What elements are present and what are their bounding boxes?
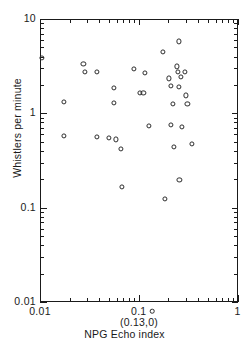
plot-area <box>40 19 238 302</box>
whistler-scatter-figure: 1010.10.01 0.010.11 (0.13,0) Whistlers p… <box>0 0 249 343</box>
y-tick-right <box>234 245 238 246</box>
y-tick-right <box>234 118 238 119</box>
y-tick <box>40 212 44 213</box>
y-tick-right <box>232 302 238 303</box>
x-tick-label: 0.01 <box>29 305 51 317</box>
x-tick <box>99 298 100 302</box>
y-tick <box>40 217 44 218</box>
y-axis-title: Whistlers per minute <box>11 53 23 203</box>
x-tick <box>216 298 217 302</box>
y-tick <box>40 122 44 123</box>
offscale-annotation: (0.13,0) <box>120 316 158 328</box>
y-tick-right <box>234 122 238 123</box>
x-tick-label: 1 <box>234 305 240 317</box>
x-tick <box>228 298 229 302</box>
x-tick-top <box>222 19 223 23</box>
y-tick <box>40 222 44 223</box>
x-tick <box>70 298 71 302</box>
x-tick <box>186 298 187 302</box>
y-tick <box>40 134 44 135</box>
y-tick <box>40 179 44 180</box>
y-tick <box>40 302 47 303</box>
y-tick-right <box>232 208 238 209</box>
y-tick <box>40 47 44 48</box>
x-tick <box>139 295 140 302</box>
y-tick-right <box>234 40 238 41</box>
y-tick-right <box>234 57 238 58</box>
y-tick <box>40 229 44 230</box>
x-tick <box>40 295 41 302</box>
x-tick-top <box>228 19 229 23</box>
y-tick-right <box>234 236 238 237</box>
x-tick-top <box>129 19 130 23</box>
y-tick-right <box>234 68 238 69</box>
x-tick <box>109 298 110 302</box>
y-tick-right <box>234 229 238 230</box>
y-tick <box>40 128 44 129</box>
y-tick <box>40 151 44 152</box>
y-tick <box>40 274 44 275</box>
y-tick-right <box>234 151 238 152</box>
y-tick-right <box>234 34 238 35</box>
y-tick <box>40 257 44 258</box>
y-tick-right <box>234 128 238 129</box>
y-tick-right <box>234 179 238 180</box>
y-tick-right <box>232 113 238 114</box>
x-tick <box>222 298 223 302</box>
y-tick-right <box>234 85 238 86</box>
offscale-data-point <box>150 309 155 314</box>
y-tick <box>40 113 47 114</box>
y-tick <box>40 208 47 209</box>
y-tick-right <box>234 142 238 143</box>
x-tick-top <box>186 19 187 23</box>
x-tick <box>198 298 199 302</box>
x-tick <box>87 298 88 302</box>
y-tick-label: 10 <box>0 12 36 24</box>
x-tick <box>168 298 169 302</box>
x-tick-top <box>198 19 199 23</box>
x-tick <box>134 298 135 302</box>
y-tick-right <box>234 47 238 48</box>
x-tick <box>238 295 239 302</box>
y-tick-right <box>234 222 238 223</box>
y-tick <box>40 19 47 20</box>
x-tick <box>129 298 130 302</box>
y-tick-right <box>234 257 238 258</box>
y-tick <box>40 245 44 246</box>
x-tick-top <box>168 19 169 23</box>
y-tick-right <box>234 28 238 29</box>
x-tick-top <box>233 19 234 23</box>
y-tick <box>40 34 44 35</box>
y-tick-right <box>234 274 238 275</box>
x-tick-top <box>87 19 88 23</box>
y-tick-right <box>234 163 238 164</box>
y-tick <box>40 68 44 69</box>
y-tick <box>40 28 44 29</box>
x-tick-top <box>40 19 41 25</box>
x-tick-top <box>117 19 118 23</box>
x-tick-top <box>70 19 71 23</box>
x-tick <box>233 298 234 302</box>
y-tick-right <box>234 134 238 135</box>
x-tick <box>208 298 209 302</box>
y-tick-right <box>234 212 238 213</box>
y-tick <box>40 142 44 143</box>
x-tick-top <box>208 19 209 23</box>
x-tick-top <box>109 19 110 23</box>
x-tick-top <box>99 19 100 23</box>
x-axis-title: NPG Echo index <box>0 328 249 340</box>
y-tick <box>40 40 44 41</box>
y-tick <box>40 118 44 119</box>
x-tick <box>123 298 124 302</box>
y-tick <box>40 236 44 237</box>
x-tick-top <box>134 19 135 23</box>
y-tick-right <box>234 217 238 218</box>
x-tick-top <box>139 19 140 25</box>
x-tick-top <box>216 19 217 23</box>
y-tick <box>40 85 44 86</box>
y-tick <box>40 163 44 164</box>
x-tick <box>117 298 118 302</box>
x-tick-top <box>123 19 124 23</box>
x-tick-top <box>238 19 239 25</box>
